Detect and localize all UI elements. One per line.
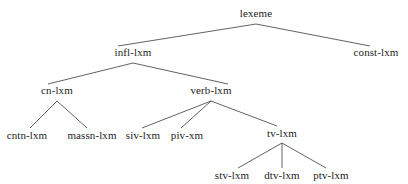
tree-edge-cn-lxm-to-massn-lxm xyxy=(57,101,87,128)
lexeme-hierarchy-diagram: lexemeinfl-lxmconst-lxmcn-lxmverb-lxmcnt… xyxy=(0,0,408,184)
tree-node-lexeme: lexeme xyxy=(240,7,272,19)
tree-node-cn-lxm: cn-lxm xyxy=(41,84,73,96)
tree-edge-verb-lxm-to-siv-lxm xyxy=(142,101,211,128)
tree-edge-lexeme-to-infl-lxm xyxy=(118,24,256,46)
tree-edge-cn-lxm-to-cntn-lxm xyxy=(30,101,57,128)
tree-node-const-lxm: const-lxm xyxy=(354,46,399,58)
tree-node-dtv-lxm: dtv-lxm xyxy=(264,169,300,181)
tree-node-cntn-lxm: cntn-lxm xyxy=(7,129,48,141)
tree-node-stv-lxm: stv-lxm xyxy=(215,169,249,181)
tree-node-siv-lxm: siv-lxm xyxy=(126,129,160,141)
tree-edge-verb-lxm-to-tv-lxm xyxy=(211,101,277,126)
tree-edge-verb-lxm-to-piv-xm xyxy=(181,101,211,128)
tree-edge-infl-lxm-to-cn-lxm xyxy=(48,63,133,84)
tree-node-verb-lxm: verb-lxm xyxy=(190,84,231,96)
tree-edge-tv-lxm-to-stv-lxm xyxy=(238,143,282,168)
tree-node-piv-xm: piv-xm xyxy=(171,129,203,141)
tree-node-massn-lxm: massn-lxm xyxy=(67,129,116,141)
tree-edge-tv-lxm-to-ptv-lxm xyxy=(282,143,326,168)
tree-node-infl-lxm: infl-lxm xyxy=(115,46,152,58)
tree-edge-infl-lxm-to-verb-lxm xyxy=(133,63,228,84)
tree-node-tv-lxm: tv-lxm xyxy=(267,127,297,139)
tree-node-ptv-lxm: ptv-lxm xyxy=(313,169,349,181)
tree-edge-lexeme-to-const-lxm xyxy=(256,24,370,46)
